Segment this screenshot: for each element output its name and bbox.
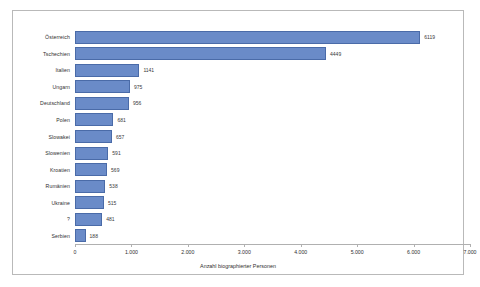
x-axis-tick bbox=[470, 244, 471, 247]
chart-frame: Österreich6119Tschechien4449Italien1141U… bbox=[12, 10, 464, 275]
category-label: ? bbox=[67, 216, 70, 222]
bar-row: Österreich6119 bbox=[75, 31, 470, 44]
x-axis-tick bbox=[75, 244, 76, 247]
bar-row: Ungarn975 bbox=[75, 80, 470, 93]
bar-row: Slowenien591 bbox=[75, 147, 470, 160]
bar-value-label: 657 bbox=[116, 134, 124, 140]
bar-value-label: 481 bbox=[106, 216, 114, 222]
x-axis-tick-label: 3.000 bbox=[238, 249, 251, 255]
bar bbox=[75, 97, 129, 110]
bar-value-label: 4449 bbox=[330, 51, 341, 57]
x-axis-line bbox=[75, 244, 470, 245]
category-label: Italien bbox=[55, 67, 70, 73]
bar-value-label: 681 bbox=[117, 117, 125, 123]
bar-value-label: 538 bbox=[109, 183, 117, 189]
category-label: Ukraine bbox=[51, 200, 70, 206]
bar-value-label: 1141 bbox=[143, 67, 154, 73]
bar-value-label: 188 bbox=[90, 233, 98, 239]
bar-value-label: 6119 bbox=[424, 34, 435, 40]
bar-row: Ukraine515 bbox=[75, 196, 470, 209]
bar bbox=[75, 31, 420, 44]
bar bbox=[75, 213, 102, 226]
bar-row: Polen681 bbox=[75, 113, 470, 126]
x-axis-tick bbox=[188, 244, 189, 247]
category-label: Rumänien bbox=[46, 183, 70, 189]
bar bbox=[75, 180, 105, 193]
bar-row: Slowakei657 bbox=[75, 130, 470, 143]
bar bbox=[75, 113, 113, 126]
bar-value-label: 569 bbox=[111, 167, 119, 173]
bar-value-label: 515 bbox=[108, 200, 116, 206]
category-label: Ungarn bbox=[52, 84, 70, 90]
bar bbox=[75, 163, 107, 176]
category-label: Österreich bbox=[45, 34, 70, 40]
bar-row: ?481 bbox=[75, 213, 470, 226]
bar bbox=[75, 196, 104, 209]
x-axis-title: Anzahl biographierter Personen bbox=[13, 263, 463, 269]
bar-row: Kroatien569 bbox=[75, 163, 470, 176]
category-label: Tschechien bbox=[43, 51, 70, 57]
bar bbox=[75, 147, 108, 160]
category-label: Polen bbox=[56, 117, 70, 123]
bar-row: Serbien188 bbox=[75, 229, 470, 242]
x-axis-tick bbox=[244, 244, 245, 247]
x-axis-tick-label: 7.000 bbox=[464, 249, 477, 255]
bar-row: Deutschland956 bbox=[75, 97, 470, 110]
bar-row: Italien1141 bbox=[75, 64, 470, 77]
bar-row: Rumänien538 bbox=[75, 180, 470, 193]
x-axis-tick-label: 4.000 bbox=[294, 249, 307, 255]
x-axis-tick bbox=[357, 244, 358, 247]
x-axis-tick-label: 2.000 bbox=[181, 249, 194, 255]
x-axis-tick bbox=[131, 244, 132, 247]
bar bbox=[75, 80, 130, 93]
x-axis-tick-label: 6.000 bbox=[407, 249, 420, 255]
bar bbox=[75, 130, 112, 143]
category-label: Kroatien bbox=[50, 167, 70, 173]
category-label: Slowenien bbox=[45, 150, 70, 156]
bar-value-label: 956 bbox=[133, 100, 141, 106]
plot-area: Österreich6119Tschechien4449Italien1141U… bbox=[75, 29, 470, 244]
category-label: Deutschland bbox=[40, 100, 70, 106]
x-axis-tick-label: 1.000 bbox=[125, 249, 138, 255]
x-axis-tick-label: 5.000 bbox=[351, 249, 364, 255]
bar-value-label: 591 bbox=[112, 150, 120, 156]
category-label: Slowakei bbox=[48, 134, 70, 140]
bar bbox=[75, 47, 326, 60]
x-axis-tick-label: 0 bbox=[74, 249, 77, 255]
bar-value-label: 975 bbox=[134, 84, 142, 90]
x-axis-tick bbox=[301, 244, 302, 247]
category-label: Serbien bbox=[51, 233, 70, 239]
bar bbox=[75, 229, 86, 242]
x-axis-tick bbox=[414, 244, 415, 247]
bar-row: Tschechien4449 bbox=[75, 47, 470, 60]
bar bbox=[75, 64, 139, 77]
